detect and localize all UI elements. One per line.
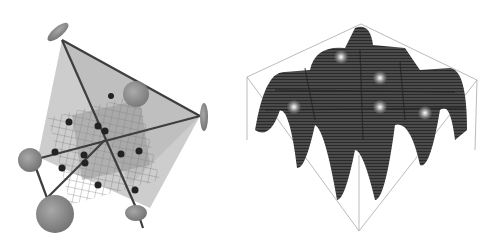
optical-lattice-diagram (0, 0, 245, 249)
lattice-potential-surface (245, 0, 490, 249)
potential-surface-plot (245, 0, 490, 249)
surface (255, 27, 467, 200)
mirror-upper-right-icon (123, 81, 149, 107)
mirror-top-icon (45, 20, 71, 44)
lattice-setup-illustration (0, 0, 245, 249)
mirror-left-icon (18, 148, 42, 172)
mirror-bottom-left-icon (36, 195, 74, 233)
mirror-bottom-icon (125, 205, 147, 221)
mirror-right-icon (200, 103, 208, 131)
